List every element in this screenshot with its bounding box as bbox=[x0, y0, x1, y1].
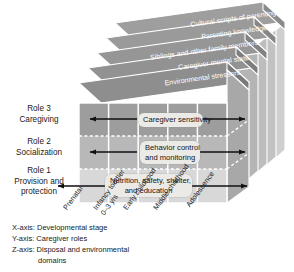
legend-x-axis: X-axis: Developmental stage bbox=[12, 222, 129, 233]
legend-z-axis: Z-axis: Disposal and environmental bbox=[12, 244, 129, 255]
role-2-name: Socialization bbox=[2, 148, 76, 159]
callout-1-line-1: Caregiver sensitivity bbox=[143, 115, 198, 125]
role-2-number: Role 2 bbox=[2, 137, 76, 148]
legend-y-axis: Y-axis: Caregiver roles bbox=[12, 233, 129, 244]
callout-behavior-control: Behavior control and monitoring bbox=[140, 141, 200, 164]
role-1-number: Role 1 bbox=[0, 166, 78, 177]
role-1-name: Provision and bbox=[0, 177, 78, 188]
role-label-1: Role 1 Provision and protection bbox=[0, 166, 78, 198]
legend-z-axis-cont: domains bbox=[12, 255, 129, 266]
role-label-2: Role 2 Socialization bbox=[2, 137, 76, 158]
cube-right-face bbox=[227, 70, 249, 203]
figure-canvas: Cultural scripts of parenting Parenting … bbox=[0, 0, 294, 272]
role-1-name-2: protection bbox=[0, 187, 78, 198]
callout-2-line-2: and monitoring bbox=[145, 153, 195, 163]
role-3-name: Caregiving bbox=[2, 115, 76, 126]
callout-caregiver-sensitivity: Caregiver sensitivity bbox=[138, 113, 203, 127]
role-label-3: Role 3 Caregiving bbox=[2, 104, 76, 125]
role-3-number: Role 3 bbox=[2, 104, 76, 115]
callout-2-line-1: Behavior control bbox=[145, 143, 195, 153]
axis-legend: X-axis: Developmental stage Y-axis: Care… bbox=[12, 222, 129, 266]
